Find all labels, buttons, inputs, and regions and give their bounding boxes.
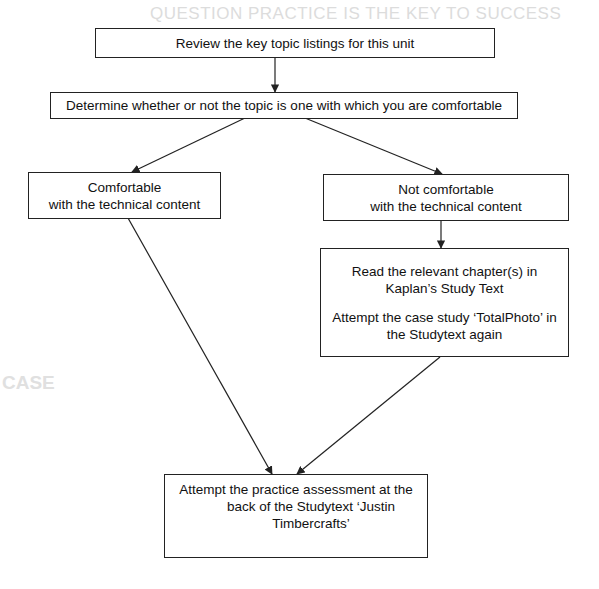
node-text: Comfortable xyxy=(88,179,162,196)
node-text: Review the key topic listings for this u… xyxy=(176,35,415,52)
node-text: the Studytext again xyxy=(387,326,503,343)
node-review-topics: Review the key topic listings for this u… xyxy=(95,28,495,58)
node-not-comfortable: Not comfortable with the technical conte… xyxy=(323,174,569,221)
node-text: back of the Studytext ‘Justin xyxy=(197,498,395,515)
node-text: Timbercrafts’ xyxy=(242,515,350,532)
node-text: with the technical content xyxy=(49,196,201,213)
node-text: Read the relevant chapter(s) in xyxy=(352,263,537,280)
node-text: Attempt the practice assessment at the xyxy=(179,481,412,498)
node-practice-assessment: Attempt the practice assessment at the b… xyxy=(164,474,428,558)
arrow-comfortable-to-practice xyxy=(128,218,272,474)
node-text: Attempt the case study ‘TotalPhoto’ in xyxy=(332,309,557,326)
node-text: Not comfortable xyxy=(398,181,493,198)
node-text: Determine whether or not the topic is on… xyxy=(66,97,502,114)
node-text: with the technical content xyxy=(370,198,522,215)
node-comfortable: Comfortable with the technical content xyxy=(28,172,221,219)
node-determine-comfort: Determine whether or not the topic is on… xyxy=(50,92,518,119)
arrow-determine-to-not-comfortable xyxy=(305,118,442,174)
node-study-text: Read the relevant chapter(s) in Kaplan’s… xyxy=(320,248,569,357)
node-text: Kaplan’s Study Text xyxy=(385,280,503,297)
arrow-study-to-practice xyxy=(297,357,440,474)
arrow-determine-to-comfortable xyxy=(132,118,245,172)
